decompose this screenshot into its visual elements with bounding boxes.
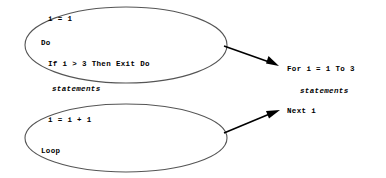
code-line-statements-right: statements xyxy=(300,88,349,96)
flow-comparison-diagram: i = 1 Do If i > 3 Then Exit Do statement… xyxy=(0,0,386,178)
code-line-init: i = 1 xyxy=(48,16,72,24)
do-loop-footer-ellipse xyxy=(25,104,227,172)
code-line-do: Do xyxy=(41,40,51,48)
code-line-increment: i = i + 1 xyxy=(48,117,92,125)
code-line-for: For i = 1 To 3 xyxy=(287,66,355,74)
arrow-header-to-for xyxy=(224,46,279,66)
code-line-next: Next i xyxy=(287,108,316,116)
code-line-statements-left: statements xyxy=(52,86,101,94)
code-line-loop: Loop xyxy=(41,148,60,156)
code-line-if-exit-do: If i > 3 Then Exit Do xyxy=(48,61,150,69)
arrow-footer-to-next xyxy=(224,110,280,133)
